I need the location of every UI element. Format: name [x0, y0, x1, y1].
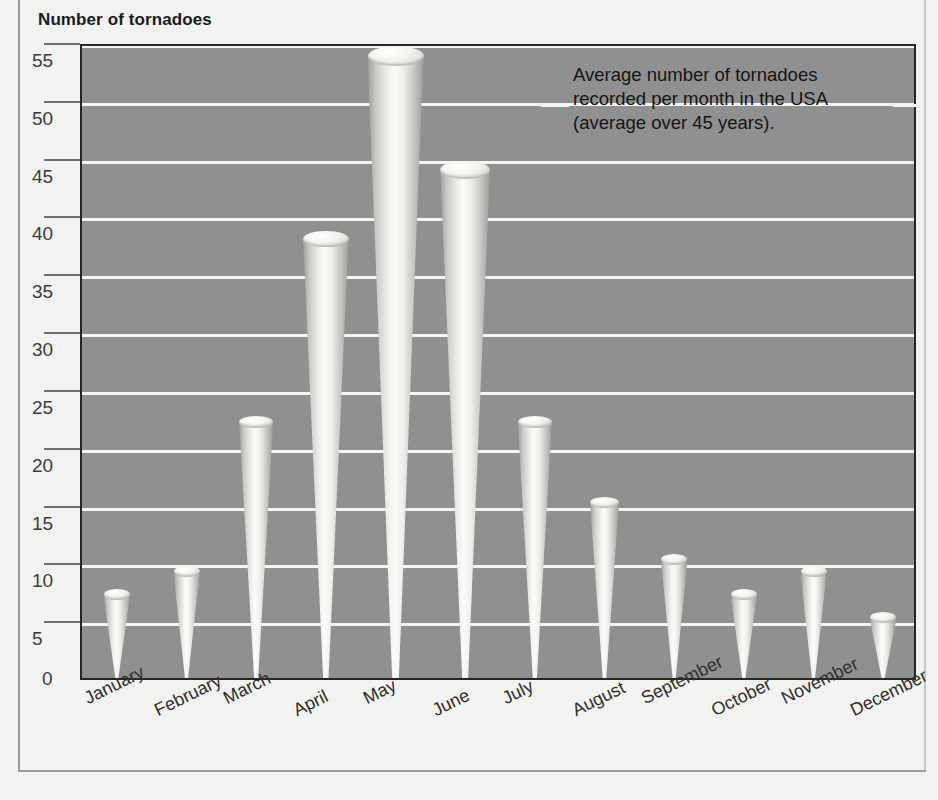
- bar-april: [303, 239, 348, 678]
- gridline-20: [82, 450, 914, 453]
- bar-february: [174, 574, 200, 678]
- cone-body: [104, 597, 130, 678]
- cone-body: [590, 505, 619, 678]
- cone-body: [239, 424, 273, 678]
- gridline-30: [82, 334, 914, 337]
- cone-top-ellipse: [174, 566, 200, 577]
- frame-border-bottom: [18, 770, 926, 772]
- gridline-45: [82, 161, 914, 164]
- y-tick-label-15: 15: [32, 513, 72, 535]
- y-tick-label-25: 25: [32, 397, 72, 419]
- cone-body: [303, 239, 348, 678]
- gridline-40: [82, 218, 914, 221]
- cone-body: [518, 424, 552, 678]
- y-tick-rule-30: [44, 332, 80, 334]
- x-tick-label-october: October: [708, 674, 775, 721]
- plot-area: [80, 44, 916, 680]
- bar-june: [440, 169, 490, 678]
- bar-march: [239, 424, 273, 678]
- gridline-15: [82, 508, 914, 511]
- cone-body: [870, 620, 896, 678]
- bar-may: [368, 54, 424, 678]
- frame-border-right: [924, 0, 926, 772]
- x-tick-label-august: August: [569, 677, 629, 720]
- x-tick-label-april: April: [290, 686, 332, 721]
- cone-top-ellipse: [303, 231, 348, 247]
- y-tick-label-55: 55: [32, 50, 72, 72]
- cone-top-ellipse: [590, 497, 619, 508]
- chart-page: Number of tornadoes 51015202530354045505…: [0, 0, 938, 800]
- bar-october: [731, 597, 757, 678]
- bar-december: [870, 620, 896, 678]
- x-axis-labels: JanuaryFebruaryMarchAprilMayJuneJulyAugu…: [80, 684, 916, 770]
- y-tick-label-30: 30: [32, 339, 72, 361]
- frame-border-left: [18, 0, 20, 772]
- y-tick-rule-15: [44, 506, 80, 508]
- y-tick-rule-25: [44, 390, 80, 392]
- y-tick-label-5: 5: [32, 628, 72, 650]
- gridline-5: [82, 623, 914, 626]
- cone-top-ellipse: [440, 161, 490, 179]
- bar-november: [801, 574, 827, 678]
- gridline-55: [82, 45, 914, 48]
- cone-body: [440, 169, 490, 678]
- cone-top-ellipse: [368, 46, 424, 66]
- cone-top-ellipse: [104, 589, 130, 600]
- y-tick-rule-55: [44, 43, 80, 45]
- cone-top-ellipse: [731, 589, 757, 600]
- bar-july: [518, 424, 552, 678]
- bar-september: [661, 562, 687, 678]
- y-tick-rule-40: [44, 216, 80, 218]
- y-tick-label-45: 45: [32, 166, 72, 188]
- cone-body: [801, 574, 827, 678]
- chart-annotation: Average number of tornadoesrecorded per …: [573, 63, 903, 135]
- x-tick-label-may: May: [360, 675, 400, 709]
- cone-body: [661, 562, 687, 678]
- y-tick-rule-35: [44, 274, 80, 276]
- y-tick-label-10: 10: [32, 570, 72, 592]
- y-tick-rule-20: [44, 448, 80, 450]
- annotation-leader-left: [541, 104, 569, 107]
- x-tick-label-july: July: [499, 676, 537, 709]
- y-tick-rule-10: [44, 563, 80, 565]
- cone-body: [174, 574, 200, 678]
- annotation-line-1: recorded per month in the USA: [573, 87, 903, 111]
- cone-top-ellipse: [239, 416, 273, 428]
- y-tick-label-zero: 0: [42, 668, 53, 690]
- bar-august: [590, 505, 619, 678]
- y-tick-rule-5: [44, 621, 80, 623]
- cone-body: [368, 54, 424, 678]
- y-tick-label-20: 20: [32, 455, 72, 477]
- y-tick-label-35: 35: [32, 281, 72, 303]
- plot-wrapper: 510152025303540455055: [80, 44, 916, 680]
- annotation-line-2: (average over 45 years).: [573, 111, 903, 135]
- annotation-line-0: Average number of tornadoes: [573, 63, 903, 87]
- y-tick-label-50: 50: [32, 108, 72, 130]
- gridline-35: [82, 276, 914, 279]
- bar-january: [104, 597, 130, 678]
- gridline-25: [82, 392, 914, 395]
- y-tick-label-40: 40: [32, 223, 72, 245]
- page-title: Number of tornadoes: [38, 10, 212, 30]
- gridline-10: [82, 565, 914, 568]
- cone-body: [731, 597, 757, 678]
- cone-top-ellipse: [518, 416, 552, 428]
- cone-top-ellipse: [801, 566, 827, 577]
- y-tick-rule-45: [44, 159, 80, 161]
- y-tick-rule-50: [44, 101, 80, 103]
- x-tick-label-june: June: [429, 685, 473, 721]
